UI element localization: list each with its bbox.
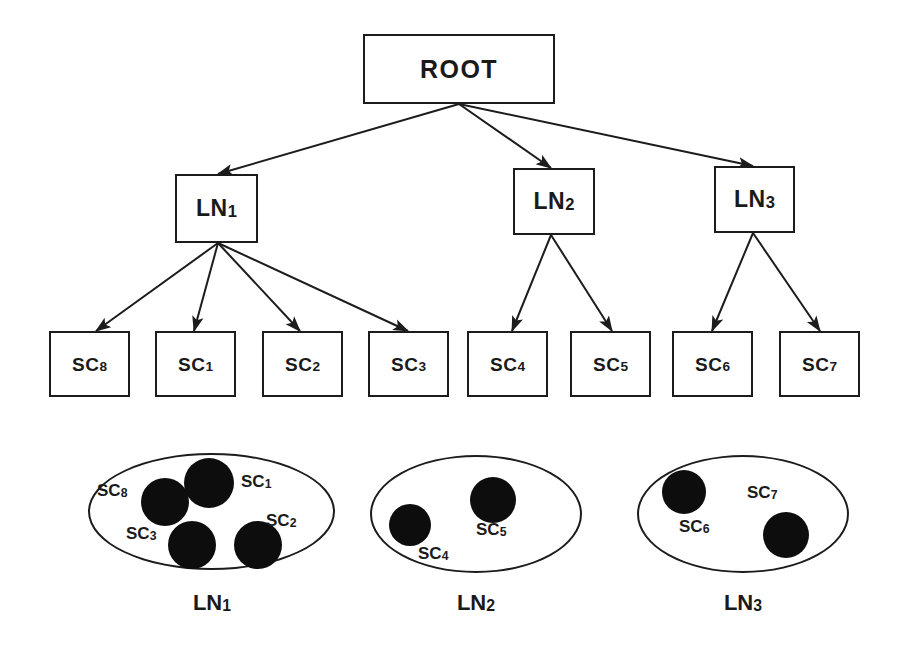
- group-ln1-caption: LN1: [172, 592, 252, 614]
- edge-ln3-to-sc7: [753, 233, 820, 331]
- dot-sc5[interactable]: [470, 477, 516, 523]
- node-sc5-label: SC5: [593, 355, 628, 374]
- node-sc1[interactable]: SC1: [155, 331, 236, 397]
- dot-sc1[interactable]: [184, 458, 234, 508]
- edge-ln1-to-sc1: [194, 243, 218, 331]
- node-sc6[interactable]: SC6: [672, 331, 753, 397]
- node-sc5[interactable]: SC5: [570, 331, 651, 397]
- diagram-canvas: ROOT LN1 LN2 LN3 SC8 SC1 SC2 SC3 SC4 SC5…: [0, 0, 905, 672]
- node-sc2[interactable]: SC2: [262, 331, 343, 397]
- node-sc3-label: SC3: [391, 355, 426, 374]
- node-sc8[interactable]: SC8: [49, 331, 130, 397]
- edge-ln1-to-sc2: [218, 243, 300, 331]
- edge-ln1-to-sc3: [218, 243, 408, 331]
- node-ln2-label: LN2: [534, 190, 575, 213]
- node-sc7[interactable]: SC7: [779, 331, 860, 397]
- node-ln3-label: LN3: [734, 188, 775, 211]
- node-sc3[interactable]: SC3: [368, 331, 449, 397]
- node-root-label: ROOT: [420, 57, 498, 82]
- dot-label-sc8: SC8: [97, 482, 127, 499]
- edge-ln2-to-sc5: [551, 235, 612, 331]
- dot-sc4[interactable]: [389, 504, 431, 546]
- edge-ln2-to-sc4: [512, 235, 551, 331]
- node-sc4[interactable]: SC4: [467, 331, 548, 397]
- edge-root-to-ln1: [218, 104, 459, 174]
- node-sc1-label: SC1: [178, 355, 213, 374]
- node-sc4-label: SC4: [490, 355, 525, 374]
- dot-sc8[interactable]: [141, 478, 189, 526]
- node-ln1[interactable]: LN1: [175, 174, 258, 243]
- node-sc6-label: SC6: [695, 355, 730, 374]
- group-ln3[interactable]: [637, 455, 849, 573]
- dot-label-sc1: SC1: [241, 473, 271, 490]
- edge-root-to-ln3: [459, 104, 753, 166]
- node-ln1-label: LN1: [196, 197, 237, 220]
- dot-label-sc3: SC3: [126, 525, 156, 542]
- dot-sc3[interactable]: [168, 521, 216, 569]
- group-ln3-caption: LN3: [703, 592, 783, 614]
- node-sc8-label: SC8: [72, 355, 107, 374]
- dot-label-sc6: SC6: [679, 518, 709, 535]
- edge-root-to-ln2: [459, 104, 551, 168]
- group-ln2-caption: LN2: [436, 592, 516, 614]
- dot-sc7[interactable]: [763, 512, 809, 558]
- dot-label-sc5: SC5: [476, 521, 506, 538]
- group-ln3-ellipse: [637, 455, 849, 573]
- dot-label-sc7: SC7: [747, 484, 777, 501]
- node-sc7-label: SC7: [802, 355, 837, 374]
- dot-label-sc2: SC2: [266, 512, 296, 529]
- node-ln2[interactable]: LN2: [513, 168, 595, 235]
- edge-ln3-to-sc6: [712, 233, 753, 331]
- node-sc2-label: SC2: [285, 355, 320, 374]
- node-root[interactable]: ROOT: [363, 34, 555, 104]
- node-ln3[interactable]: LN3: [714, 166, 795, 233]
- dot-sc6[interactable]: [662, 470, 706, 514]
- dot-label-sc4: SC4: [418, 545, 448, 562]
- edge-ln1-to-sc8: [96, 243, 218, 331]
